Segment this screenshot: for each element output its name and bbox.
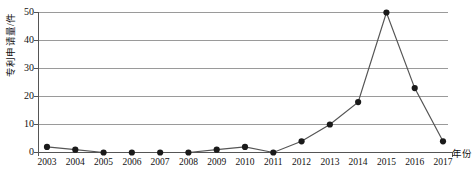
figure-caption [60, 178, 410, 187]
x-axis-title: 年份 [452, 146, 472, 160]
